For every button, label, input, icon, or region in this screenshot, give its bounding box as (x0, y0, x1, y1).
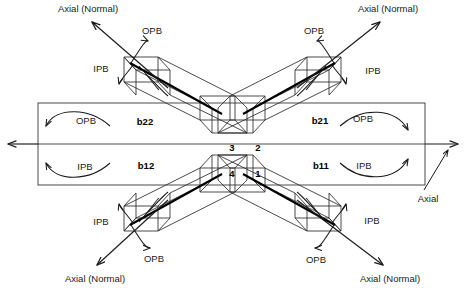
label-brace-b21: b21 (312, 115, 329, 126)
label-ipb-chord-right: IPB (356, 160, 371, 171)
label-ipb-bottom-left: IPB (93, 216, 108, 227)
label-opb-chord-right: OPB (353, 113, 373, 124)
label-axial-normal-top-left: Axial (Normal) (58, 3, 118, 14)
opb-curve-lower-left (131, 225, 150, 248)
tubular-joint-diagram: Axial (Normal) Axial (Normal) Axial (Nor… (0, 0, 465, 290)
label-ipb-bottom-right: IPB (364, 215, 379, 226)
axial-leader-right (424, 150, 448, 190)
label-brace-b22: b22 (137, 116, 153, 127)
label-opb-chord-left: OPB (76, 115, 96, 126)
label-brace-b11: b11 (313, 160, 330, 171)
opb-curve-chord-right (340, 112, 408, 130)
opb-curve-upper-left (131, 41, 148, 63)
label-hotspot-3: 3 (229, 142, 234, 153)
label-hotspot-4: 4 (229, 168, 235, 179)
label-ipb-top-right: IPB (365, 65, 380, 76)
ipb-curve-chord-right (340, 159, 408, 177)
label-axial-normal-bottom-left: Axial (Normal) (65, 273, 125, 284)
label-axial-right: Axial (418, 193, 439, 204)
label-brace-b12: b12 (138, 160, 154, 171)
diagram-canvas: Axial (Normal) Axial (Normal) Axial (Nor… (0, 0, 465, 290)
label-ipb-top-left: IPB (93, 63, 108, 74)
annotation-layer: Axial (Normal) Axial (Normal) Axial (Nor… (58, 3, 438, 284)
label-opb-top-right: OPB (304, 25, 324, 36)
label-opb-bottom-right: OPB (306, 254, 326, 265)
opb-curve-upper-right (317, 41, 334, 63)
opb-curve-lower-right (315, 225, 334, 248)
label-opb-top-left: OPB (142, 25, 162, 36)
label-opb-bottom-left: OPB (144, 253, 164, 264)
label-axial-normal-top-right: Axial (Normal) (358, 3, 418, 14)
label-hotspot-1: 1 (255, 168, 261, 179)
label-ipb-chord-left: IPB (77, 161, 92, 172)
label-axial-normal-bottom-right: Axial (Normal) (360, 273, 420, 284)
label-hotspot-2: 2 (255, 142, 260, 153)
